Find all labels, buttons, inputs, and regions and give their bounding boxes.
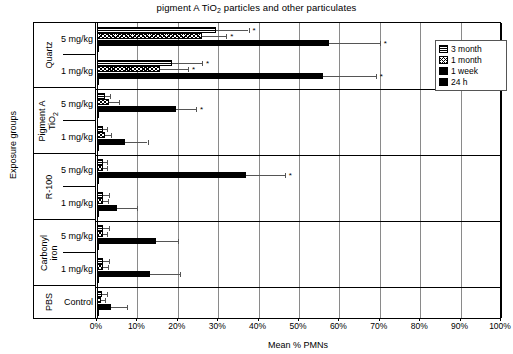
x-tick-label: 70% [370,321,387,331]
error-bar [176,109,196,110]
error-bar [246,175,284,176]
x-tick-label: 40% [249,321,266,331]
bar [97,46,99,52]
bar [97,93,105,99]
group-label-cell: Pigment ATiO2 [33,88,63,154]
bar [97,205,117,211]
x-axis-title: Mean % PMNs [95,340,501,350]
bar [97,99,109,105]
error-bar-cap [109,259,110,264]
bar [97,60,172,66]
error-bar [323,76,376,77]
error-bar-cap [108,199,109,204]
error-bar-cap [109,193,110,198]
error-bar-cap [188,67,189,72]
error-bar-cap [107,232,108,237]
error-bar [109,102,119,103]
gridline-40 [259,23,260,318]
error-bar-cap [107,292,108,297]
bar [97,277,99,283]
error-bar [125,142,147,143]
error-bar-cap [202,61,203,66]
dose-label-cell: 1 mg/kg [63,55,95,88]
legend-swatch-horizontal-lines [439,45,448,53]
dose-label: 5 mg/kg [61,231,93,241]
x-tick-label: 0% [90,321,102,331]
error-bar-cap [137,206,138,211]
row-separator [96,287,500,288]
bar [97,178,99,184]
error-bar-cap [108,265,109,270]
error-bar [329,43,380,44]
dose-label: 1 mg/kg [61,66,93,76]
group-label-cell: Quartz [33,22,63,88]
dose-label: 5 mg/kg [61,165,93,175]
bar [97,211,99,217]
group-label-cell: Carbonyliron [33,220,63,286]
dose-label-cell: 1 mg/kg [63,253,95,286]
chart-title-post: particles and other particulates [221,2,356,13]
group-label: R-100 [44,174,54,199]
group-label: Pigment ATiO2 [37,100,61,141]
error-bar-cap [376,74,377,79]
x-tick-label: 10% [128,321,145,331]
significance-star: * [200,107,203,113]
legend-swatch-solid-black [439,78,448,86]
dose-label: 1 mg/kg [61,264,93,274]
bar [97,145,99,151]
x-tick-label: 80% [411,321,428,331]
gridline-70 [380,23,381,318]
bar [97,106,176,112]
significance-star: * [380,74,383,80]
chart-legend: 3 month1 month1 week24 h [435,40,507,91]
dose-label-cell: 5 mg/kg [63,154,95,187]
bar [97,40,329,46]
error-bar-cap [285,173,286,178]
bar [97,172,246,178]
error-bar-cap [110,94,111,99]
group-label-cell: R-100 [33,154,63,220]
gridline-80 [420,23,421,318]
x-tick-label: 60% [330,321,347,331]
dose-label: 5 mg/kg [61,34,93,44]
legend-swatch-cross-hatch [439,56,448,64]
dose-label-cell: 5 mg/kg [63,220,95,253]
bar [97,33,202,39]
bar [97,310,99,316]
error-bar [172,63,202,64]
dose-label: 5 mg/kg [61,99,93,109]
x-tick-label: 100% [489,321,511,331]
chart-root: pigment A TiO2 particles and other parti… [0,0,513,354]
row-separator [96,155,500,156]
error-bar-cap [127,305,128,310]
error-bar [111,307,127,308]
x-tick-label: 20% [168,321,185,331]
x-tick-label: 50% [289,321,306,331]
dose-label: Control [64,297,93,307]
group-label-column: QuartzPigment ATiO2R-100CarbonylironPBS [33,22,63,319]
error-bar-cap [148,140,149,145]
row-separator [96,221,500,222]
bar [97,73,323,79]
error-bar-cap [111,133,112,138]
legend-label: 1 week [451,66,478,76]
dose-label-cell: 5 mg/kg [63,88,95,121]
error-bar-cap [107,166,108,171]
bar [97,304,111,310]
bar [97,66,160,72]
bar [97,112,99,118]
dose-label: 1 mg/kg [61,132,93,142]
error-bar-cap [196,107,197,112]
dose-label-cell: 1 mg/kg [63,121,95,154]
error-bar [160,69,188,70]
bar [97,271,150,277]
error-bar-cap [105,298,106,303]
chart-title: pigment A TiO2 particles and other parti… [0,2,513,14]
dose-label-column: 5 mg/kg1 mg/kg5 mg/kg1 mg/kg5 mg/kg1 mg/… [63,22,95,319]
legend-label: 24 h [451,77,468,87]
bar [97,244,99,250]
x-tick-label: 30% [209,321,226,331]
group-label-cell: PBS [33,286,63,319]
bar [97,139,125,145]
dose-label-cell: 1 mg/kg [63,187,95,220]
